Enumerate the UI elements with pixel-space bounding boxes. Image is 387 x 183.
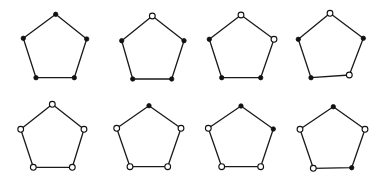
pentagon-7 <box>205 104 275 170</box>
pentagon-6 <box>114 104 184 170</box>
pentagon-outline <box>208 106 273 167</box>
open-vertex-right <box>81 126 87 132</box>
filled-vertex-bottom-right <box>259 76 263 80</box>
filled-vertex-bottom-left <box>220 76 224 80</box>
open-vertex-left <box>18 126 24 132</box>
pentagon-outline <box>209 15 274 78</box>
open-vertex-bottom-right <box>346 72 352 78</box>
filled-vertex-right <box>85 37 89 41</box>
filled-vertex-top <box>54 12 58 16</box>
open-vertex-right <box>362 126 368 132</box>
filled-vertex-left <box>207 37 211 41</box>
pentagon-1 <box>21 12 89 80</box>
filled-vertex-bottom-right <box>72 76 76 80</box>
filled-vertex-top <box>147 104 151 108</box>
pentagon-outline <box>117 106 181 167</box>
open-vertex-left <box>114 125 120 131</box>
open-vertex-right <box>178 125 184 131</box>
filled-vertex-left <box>21 36 25 40</box>
pentagon-diagram <box>0 0 387 183</box>
pentagon-grid-figure <box>0 0 387 183</box>
open-vertex-left <box>205 125 211 131</box>
filled-vertex-top <box>331 105 335 109</box>
filled-vertex-bottom-left <box>309 76 313 80</box>
open-vertex-left <box>297 126 303 132</box>
open-vertex-bottom-left <box>310 165 316 171</box>
filled-vertex-bottom-left <box>131 77 135 81</box>
pentagon-3 <box>207 12 277 80</box>
pentagon-4 <box>296 10 365 80</box>
open-vertex-top <box>49 101 55 107</box>
open-vertex-bottom-left <box>219 164 225 170</box>
open-vertex-bottom-right <box>165 164 171 170</box>
filled-vertex-left <box>120 39 124 43</box>
filled-vertex-bottom-right <box>350 166 354 170</box>
filled-vertex-right <box>361 36 365 40</box>
pentagon-outline <box>23 14 86 77</box>
open-vertex-top <box>327 10 333 16</box>
open-vertex-bottom-left <box>30 164 36 170</box>
open-vertex-top <box>238 12 244 18</box>
pentagon-outline <box>122 16 184 79</box>
open-vertex-bottom-right <box>69 164 75 170</box>
pentagon-outline <box>21 104 84 167</box>
filled-vertex-bottom-right <box>170 77 174 81</box>
pentagon-outline <box>300 107 365 169</box>
filled-vertex-bottom-left <box>34 76 38 80</box>
filled-vertex-right <box>271 127 275 131</box>
open-vertex-right <box>271 36 277 42</box>
pentagon-8 <box>297 105 368 172</box>
open-vertex-bottom-left <box>127 164 133 170</box>
filled-vertex-top <box>239 104 243 108</box>
pentagon-5 <box>18 101 87 170</box>
open-vertex-top <box>149 13 155 19</box>
open-vertex-bottom-right <box>258 164 264 170</box>
filled-vertex-left <box>296 37 300 41</box>
pentagon-2 <box>120 13 187 81</box>
pentagon-outline <box>298 13 363 77</box>
filled-vertex-right <box>182 39 186 43</box>
